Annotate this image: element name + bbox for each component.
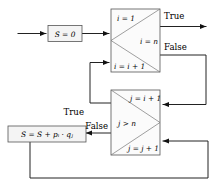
outer-loop-top-label: i = 1	[117, 14, 135, 23]
edge-label-outer-true: True	[164, 11, 184, 21]
outer-loop-bottom-label: i = i + 1	[114, 62, 145, 71]
edge-outer-false-to-inner-loop	[160, 55, 206, 105]
inner-loop-bottom-label: j = j + 1	[126, 144, 159, 153]
flowchart-canvas: S = 0 i = 1 i = n i = i + 1 j = i + 1 j …	[0, 0, 219, 186]
edge-label-inner-true: True	[64, 107, 84, 117]
edge-inner-true-to-outer-loop	[90, 63, 111, 104]
edge-label-outer-false: False	[164, 42, 187, 52]
edge-label-inner-false: False	[85, 121, 108, 131]
inner-loop-condition-label: j > n	[116, 119, 136, 128]
flowchart-svg: S = 0 i = 1 i = n i = i + 1 j = i + 1 j …	[0, 0, 219, 186]
init-box-label: S = 0	[55, 30, 76, 39]
outer-loop-condition-label: i = n	[140, 37, 158, 46]
accumulate-box-label: S = S + pᵢ · qⱼ	[21, 130, 73, 139]
inner-loop-top-label: j = i + 1	[128, 94, 161, 103]
